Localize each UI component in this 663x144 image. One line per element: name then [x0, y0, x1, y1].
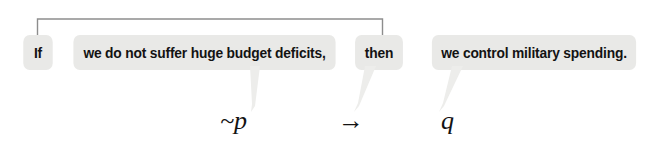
chip-if-label: If	[34, 45, 42, 60]
chip-consequent-label: we control military spending.	[441, 45, 627, 60]
logic-diagram-canvas: If we do not suffer huge budget deficits…	[0, 0, 663, 144]
consequent-symbol: q	[441, 108, 454, 134]
chip-antecedent-label: we do not suffer huge budget deficits,	[83, 45, 325, 60]
chip-consequent: we control military spending.	[432, 35, 636, 70]
antecedent-symbol: ~p	[220, 108, 247, 134]
chip-if: If	[23, 35, 52, 70]
implication-arrow-icon: →	[338, 108, 364, 134]
chip-then: then	[355, 35, 403, 70]
chip-then-label: then	[365, 45, 393, 60]
chip-antecedent: we do not suffer huge budget deficits,	[73, 35, 335, 70]
